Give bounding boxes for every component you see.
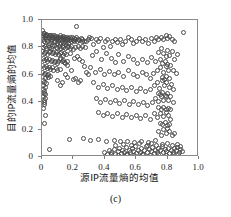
scatter-point xyxy=(108,100,113,105)
scatter-point xyxy=(167,122,172,127)
y-tick-mark xyxy=(38,46,41,47)
scatter-point xyxy=(91,80,96,85)
scatter-point xyxy=(154,143,159,148)
scatter-point xyxy=(104,139,109,144)
scatter-point xyxy=(67,137,72,142)
y-tick-mark xyxy=(38,129,41,130)
scatter-point xyxy=(69,68,74,73)
x-tick-mark xyxy=(198,156,199,159)
scatter-point xyxy=(172,39,177,44)
scatter-point xyxy=(148,117,153,122)
scatter-point xyxy=(83,45,88,50)
scatter-point xyxy=(172,57,177,62)
scatter-point xyxy=(121,74,126,79)
x-axis-title: 源IP流量熵的均值 xyxy=(41,170,198,184)
y-tick-label: 0.8 xyxy=(22,41,33,52)
y-tick-mark xyxy=(38,19,41,20)
scatter-point xyxy=(132,153,137,155)
scatter-point xyxy=(121,59,126,64)
scatter-point xyxy=(46,75,51,80)
scatter-point xyxy=(146,41,151,46)
scatter-point xyxy=(171,100,176,105)
scatter-point xyxy=(122,98,127,103)
scatter-point xyxy=(174,71,179,76)
y-tick-label: 0.6 xyxy=(22,68,33,79)
scatter-point xyxy=(176,152,181,155)
scatter-point xyxy=(98,67,103,72)
y-tick-label: 1.0 xyxy=(22,14,33,25)
y-axis-title-text: 目的IP流量熵的均值 xyxy=(5,43,19,132)
scatter-point xyxy=(81,136,86,141)
y-tick-mark xyxy=(38,74,41,75)
scatter-point xyxy=(178,144,183,149)
scatter-point xyxy=(175,52,180,57)
scatter-point xyxy=(153,59,158,64)
scatter-point xyxy=(124,152,129,155)
scatter-point xyxy=(108,44,113,49)
figure-container: 00.20.40.60.81.0 00.20.40.60.81.0 源IP流量熵… xyxy=(0,0,231,217)
scatter-point xyxy=(93,70,98,75)
scatter-point xyxy=(74,24,79,29)
scatter-point xyxy=(116,52,121,57)
scatter-point xyxy=(88,65,93,70)
scatter-point xyxy=(99,57,104,62)
scatter-point xyxy=(65,75,70,80)
scatter-point xyxy=(166,68,171,73)
y-tick-mark xyxy=(38,156,41,157)
scatter-point xyxy=(47,147,52,152)
scatter-point xyxy=(42,121,47,126)
scatter-point xyxy=(116,153,121,155)
y-tick-mark xyxy=(38,101,41,102)
scatter-point xyxy=(101,45,106,50)
scatter-point xyxy=(42,106,46,111)
y-axis-title: 目的IP流量熵的均值 xyxy=(5,19,18,156)
scatter-point xyxy=(148,76,153,81)
y-tick-label: 0 xyxy=(29,151,34,162)
scatter-point xyxy=(115,111,120,116)
scatter-point xyxy=(135,74,140,79)
scatter-point xyxy=(150,100,155,105)
scatter-point xyxy=(96,137,101,142)
scatter-point xyxy=(171,87,176,92)
scatter-point xyxy=(104,51,109,56)
scatter-point xyxy=(82,64,87,69)
scatter-point xyxy=(156,152,161,155)
scatter-point xyxy=(43,113,48,118)
scatter-point xyxy=(86,72,91,77)
y-tick-label: 0.2 xyxy=(22,123,33,134)
scatter-point xyxy=(145,60,150,65)
scatter-point xyxy=(109,152,114,155)
scatter-point xyxy=(172,131,177,136)
scatter-point xyxy=(164,153,169,155)
scatter-point xyxy=(169,82,174,87)
scatter-point xyxy=(60,80,65,85)
scatter-point xyxy=(168,107,173,112)
plot-area xyxy=(41,19,198,156)
scatter-point xyxy=(90,53,95,58)
y-axis-tick-marks xyxy=(38,19,42,156)
scatter-points-layer xyxy=(42,20,197,155)
scatter-point xyxy=(135,61,140,66)
y-tick-label: 0.4 xyxy=(22,96,33,107)
scatter-point xyxy=(113,60,118,65)
figure-caption: (c) xyxy=(0,193,231,204)
scatter-point xyxy=(126,68,131,73)
scatter-point xyxy=(88,138,93,143)
scatter-point xyxy=(94,49,99,54)
scatter-point xyxy=(78,78,83,83)
scatter-point xyxy=(140,152,145,155)
scatter-point xyxy=(148,153,153,155)
scatter-point xyxy=(129,143,134,148)
scatter-point xyxy=(58,67,63,72)
scatter-point xyxy=(181,30,186,35)
scatter-point xyxy=(167,76,172,81)
